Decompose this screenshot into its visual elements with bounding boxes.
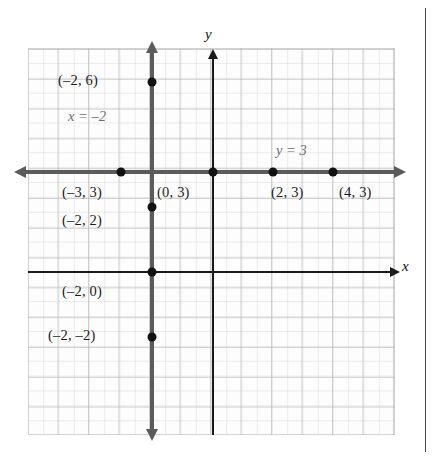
y-axis [212,58,214,435]
y-axis-arrow-up-icon [208,49,218,59]
plotted-point [148,268,157,277]
line-arrow-up-icon [146,41,158,53]
plotted-point [148,203,157,212]
coordinate-plane: x y x = –2 y = 3 (–2, 6)(–3, 3)(0, 3)(2,… [0,0,420,459]
point-coordinate-label: (–2, 2) [62,212,102,229]
point-coordinate-label: (4, 3) [339,184,372,201]
line-arrow-down-icon [146,429,158,441]
line-arrow-left-icon [14,166,26,178]
plotted-point [117,168,126,177]
plotted-point [148,78,157,87]
plotted-point [329,168,338,177]
y-axis-label: y [205,26,212,43]
figure-page: x y x = –2 y = 3 (–2, 6)(–3, 3)(0, 3)(2,… [0,0,440,459]
x-axis [28,271,391,273]
equation-label-y-equals-3: y = 3 [276,142,307,159]
equation-label-x-equals-neg2: x = –2 [68,108,106,125]
point-coordinate-label: (–3, 3) [62,184,102,201]
point-coordinate-label: (–2, 0) [62,283,102,300]
line-x-equals-neg2 [150,52,154,430]
x-axis-arrow-right-icon [390,267,400,277]
page-rule-divider [425,8,426,452]
point-coordinate-label: (–2, –2) [48,327,96,344]
point-coordinate-label: (0, 3) [157,184,190,201]
line-arrow-right-icon [394,166,406,178]
point-coordinate-label: (–2, 6) [58,72,98,89]
plotted-point [209,168,218,177]
x-axis-label: x [402,258,409,275]
point-coordinate-label: (2, 3) [271,184,304,201]
plotted-point [148,333,157,342]
plotted-point [269,168,278,177]
